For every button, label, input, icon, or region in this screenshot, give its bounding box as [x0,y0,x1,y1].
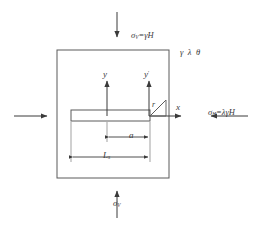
label-crack-length-a: a [129,131,134,140]
label-sigma-h-right: σH=λγH [208,108,235,117]
label-sigma-v-bottom: σV [113,199,120,208]
figure-canvas: σV=γH σH=λγH σV γ λ θ y y′ x r a Ls [0,0,255,231]
label-axis-y-prime: y′ [144,70,149,79]
label-material-parameters: γ λ θ [180,48,201,57]
label-sigma-v-top: σV=γH [131,31,154,40]
label-axis-x: x [176,103,180,112]
label-slot-length-ls: Ls [103,151,110,161]
label-axis-y: y [103,70,107,79]
label-radius-r: r [152,101,155,109]
crack-slot [71,110,150,121]
